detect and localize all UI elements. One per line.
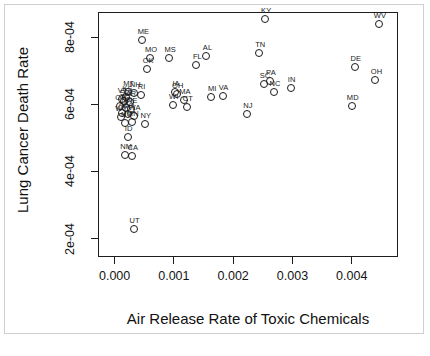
scatter-point-label: OK [143, 56, 154, 65]
scatter-point [141, 120, 149, 128]
scatter-point-label: CA [127, 143, 138, 152]
scatter-point-label: WV [374, 11, 386, 20]
scatter-point [169, 101, 177, 109]
scatter-point-label: IN [288, 75, 296, 84]
y-axis-tick [91, 104, 98, 105]
scatter-point [261, 15, 269, 23]
scatter-point-label: MD [347, 93, 359, 102]
scatter-point [130, 225, 138, 233]
x-axis-tick [351, 257, 352, 264]
scatter-point [348, 102, 356, 110]
scatter-point-label: NJ [243, 101, 252, 110]
scatter-point-label: CT [183, 94, 193, 103]
scatter-point-label: PA [266, 68, 276, 77]
scatter-point-label: VA [219, 83, 229, 92]
scatter-point [183, 103, 191, 111]
scatter-point [219, 92, 227, 100]
x-axis-tick-label: 0.000 [99, 269, 130, 283]
y-axis-tick-label: 2e-04 [63, 223, 77, 255]
x-axis-tick [233, 257, 234, 264]
scatter-point [243, 110, 251, 118]
y-axis-tick [91, 37, 98, 38]
scatter-point-label: OH [371, 67, 382, 76]
x-axis-title: Air Release Rate of Toxic Chemicals [127, 310, 369, 327]
scatter-point-label: FL [193, 52, 202, 61]
x-axis-tick-label: 0.003 [277, 269, 308, 283]
y-axis-tick-label: 4e-04 [63, 155, 77, 187]
scatter-point [270, 88, 278, 96]
y-axis-tick [91, 171, 98, 172]
y-axis-tick [91, 238, 98, 239]
x-axis-tick [292, 257, 293, 264]
scatter-point-label: NV [121, 110, 132, 119]
scatter-point-label: TN [255, 40, 265, 49]
y-axis-tick-label: 6e-04 [63, 88, 77, 120]
scatter-point-label: AL [203, 43, 212, 52]
scatter-point [124, 133, 132, 141]
x-axis-tick-label: 0.002 [218, 269, 249, 283]
y-axis-tick-label: 8e-04 [63, 21, 77, 53]
scatter-point-label: MI [208, 84, 217, 93]
scatter-point-label: DE [350, 54, 361, 63]
scatter-point-label: ME [138, 27, 149, 36]
x-axis-tick [114, 257, 115, 264]
y-axis-title: Lung Cancer Death Rate [14, 47, 31, 213]
scatter-point-label: KY [261, 6, 271, 15]
scatter-point [287, 84, 295, 92]
scatter-point-label: MS [164, 45, 175, 54]
x-axis-tick-label: 0.004 [336, 269, 367, 283]
scatter-point-label: RI [138, 82, 146, 91]
plot-area [98, 12, 398, 257]
x-axis-tick [173, 257, 174, 264]
scatter-point-label: MO [145, 45, 157, 54]
scatter-point-label: ID [125, 124, 133, 133]
x-axis-tick-label: 0.001 [158, 269, 189, 283]
scatter-point-label: WI [169, 92, 178, 101]
chart-page: 0.0000.0010.0020.0030.0042e-044e-046e-04… [0, 0, 430, 356]
scatter-point [137, 91, 145, 99]
scatter-point-label: UT [129, 216, 139, 225]
scatter-point-label: NC [270, 79, 281, 88]
scatter-point-label: NY [141, 111, 152, 120]
